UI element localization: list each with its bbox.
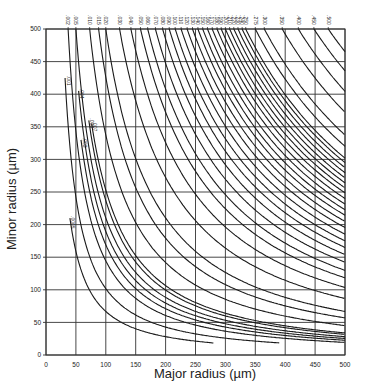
curve-label: .003 [82,138,88,148]
curve-label: .100 [172,15,178,25]
volume-curve [181,29,345,234]
curve-label: .050 [138,15,144,25]
volume-curve [79,91,345,339]
volume-curve [163,29,345,254]
curve-label: .400 [296,15,302,25]
curve-label: .450 [311,15,317,25]
y-tick-label: 200 [30,221,41,228]
x-axis-label: Major radius (µm) [154,366,256,381]
y-tick-label: 450 [30,58,41,65]
curve-label: .040 [128,15,134,25]
y-tick-label: 0 [37,351,41,358]
curve-label: .007 [92,122,98,132]
curve-label: .130 [190,15,196,25]
curve-label: .0005 [70,216,76,229]
curve-label: .030 [117,15,123,25]
volume-curve [120,29,345,298]
y-tick-label: 100 [30,286,41,293]
curve-label: .010 [87,15,93,25]
x-tick-label: 400 [280,361,291,368]
volume-curve [155,29,344,262]
curve-label: .275 [253,15,259,25]
volume-curve [76,29,345,337]
curve-label: .002 [65,15,71,25]
curve-label: .015 [96,15,102,25]
volume-curve [131,29,345,287]
curve-label: .120 [184,15,190,25]
curve-label: .350 [279,15,285,25]
curve-label: .080 [160,15,166,25]
curve-label: .020 [103,15,109,25]
volume-curve [314,29,345,71]
curve-label: .070 [153,15,159,25]
curve-label: .300 [262,15,268,25]
x-tick-label: 100 [100,361,111,368]
curve-label: .500 [326,15,332,25]
y-tick-label: 250 [30,188,41,195]
x-tick-label: 150 [130,361,141,368]
x-tick-label: 450 [310,361,321,368]
y-tick-label: 50 [34,319,42,326]
volume-curves [65,27,345,343]
y-tick-label: 400 [30,90,41,97]
x-tick-label: 500 [340,361,351,368]
x-tick-label: 0 [44,361,48,368]
volume-curve [298,29,345,91]
curve-label: .004 [79,89,85,99]
chart-canvas: .0005.001.002.003.004.005.006.007.010.01… [0,0,373,391]
y-tick-label: 150 [30,253,41,260]
volume-curve [282,29,344,112]
volume-curve [221,29,344,187]
curve-label: .110 [178,15,184,25]
y-tick-label: 350 [30,123,41,130]
curve-label: .060 [145,15,151,25]
curve-label: .001 [66,76,72,86]
x-tick-label: 50 [72,361,80,368]
y-axis-label: Minor radius (µm) [4,148,19,250]
curve-label: .250 [243,15,249,25]
volume-curve [65,78,279,343]
curve-label: .090 [166,15,172,25]
y-axis-ticks: 050100150200250300350400450500 [30,25,41,358]
y-tick-label: 500 [30,25,41,32]
y-tick-label: 300 [30,156,41,163]
volume-curve [328,29,345,52]
curve-label: .005 [73,15,79,25]
